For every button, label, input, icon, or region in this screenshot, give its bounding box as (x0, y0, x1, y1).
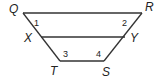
angle-label-4: 4 (96, 49, 101, 59)
trapezoid-diagram: Q R X Y T S 1 2 3 4 (0, 0, 161, 83)
vertex-label-r: R (145, 0, 154, 14)
angle-label-1: 1 (34, 18, 39, 28)
angle-label-3: 3 (63, 49, 68, 59)
vertex-label-t: T (50, 64, 59, 78)
vertex-label-x: X (23, 31, 33, 45)
angle-label-2: 2 (122, 18, 127, 28)
vertex-label-s: S (102, 65, 110, 79)
vertex-label-y: Y (130, 31, 139, 45)
vertex-label-q: Q (9, 2, 18, 16)
